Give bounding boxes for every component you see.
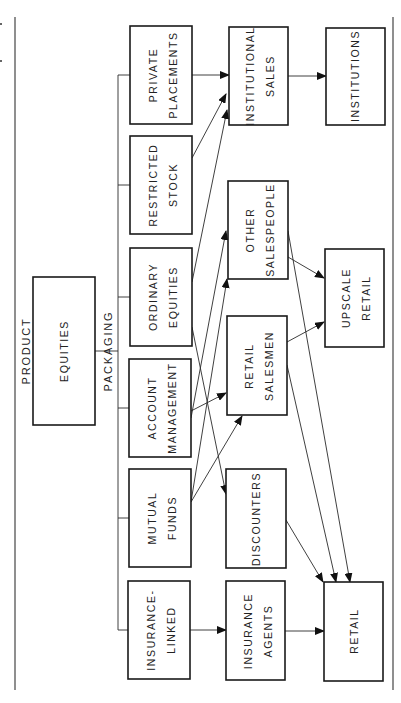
box-label-line1: RESTRICTED [147, 143, 159, 226]
edge-ordinary-to-institutional [192, 110, 227, 282]
mark-dot [0, 60, 2, 62]
box-label-line2: SALESPEOPLE [264, 183, 276, 276]
box-label-line1: OTHER [244, 208, 256, 253]
box-label-line2: SALES [264, 55, 276, 97]
box-label-line2: STOCK [167, 163, 179, 207]
box-label-line1: INSTITUTIONAL [244, 26, 256, 126]
box-label-line1: INSURANCE [242, 593, 254, 669]
box-mutual-funds: MUTUAL FUNDS [129, 469, 191, 567]
box-label-line1: DISCOUNTERS [250, 472, 262, 566]
box-retail-salesmen: RETAIL SALESMEN [227, 316, 287, 415]
box-label-line1: PRIVATE [147, 48, 159, 103]
box-label-line1: MUTUAL [146, 492, 158, 545]
box-label-line1: ORDINARY [147, 263, 159, 331]
box-label-line1: RETAIL [348, 608, 360, 654]
edge-retail-salesmen-to-retail [287, 365, 336, 582]
box-label-line1: ACCOUNT [146, 376, 158, 439]
box-label-line1: INSTITUTIONS [349, 30, 361, 122]
box-label-line2: MANAGEMENT [166, 362, 178, 453]
edge-retail-salesmen-to-upscale [287, 322, 324, 342]
box-label-line2: PLACEMENTS [167, 31, 179, 118]
box-insurance-linked: INSURANCE- LINKED [128, 581, 190, 679]
box-retail: RETAIL [324, 582, 383, 681]
box-upscale-retail: UPSCALE RETAIL [325, 249, 384, 347]
box-label-line2: AGENTS [262, 605, 274, 658]
box-label: EQUITIES [58, 320, 70, 382]
box-label-line2: RETAIL [360, 275, 372, 321]
distribution-diagram: PRODUCT PACKAGING EQUITIES PRIVATE PLACE… [0, 0, 401, 703]
box-label-line1: RETAIL [243, 343, 255, 389]
box-label-line1: UPSCALE [340, 268, 352, 328]
box-insurance-agents: INSURANCE AGENTS [226, 581, 285, 680]
box-institutional-sales: INSTITUTIONAL SALES [229, 26, 288, 126]
edge-ordinary-to-discounters [192, 327, 226, 494]
box-label-line2: SALESMEN [263, 331, 275, 401]
product-label: PRODUCT [20, 318, 32, 385]
box-equities: EQUITIES [33, 277, 95, 425]
box-private-placements: PRIVATE PLACEMENTS [130, 26, 192, 124]
box-discounters: DISCOUNTERS [226, 469, 286, 568]
box-label-line2: LINKED [165, 606, 177, 654]
box-account-management: ACCOUNT MANAGEMENT [129, 359, 191, 457]
box-restricted-stock: RESTRICTED STOCK [130, 136, 192, 234]
edge-restricted-to-institutional [192, 94, 226, 158]
box-label-line1: INSURANCE- [145, 589, 157, 670]
box-institutions: INSTITUTIONS [326, 28, 385, 125]
mark-dot [0, 23, 2, 25]
box-other-salespeople: OTHER SALESPEOPLE [228, 181, 288, 279]
box-ordinary-equities: ORDINARY EQUITIES [130, 248, 192, 346]
box-label-line2: FUNDS [166, 496, 178, 540]
edge-discounters-to-retail [286, 520, 323, 582]
box-label-line2: EQUITIES [167, 266, 179, 328]
